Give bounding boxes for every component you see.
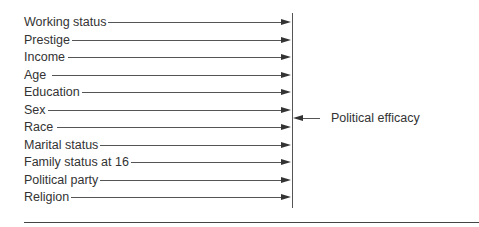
predictor-label: Prestige [24, 33, 72, 47]
predictor-arrow-line [52, 75, 282, 76]
predictor-arrow-line [128, 162, 282, 163]
arrowhead-icon [281, 124, 291, 130]
predictor-arrow-line [57, 127, 282, 128]
outcome-label: Political efficacy [331, 111, 420, 125]
arrowhead-icon [281, 89, 291, 95]
arrowhead-icon [281, 54, 291, 60]
arrowhead-icon [281, 72, 291, 78]
predictor-arrow-line [90, 22, 282, 23]
predictor-arrow-line [47, 110, 282, 111]
outcome-arrow-line [300, 118, 320, 119]
bottom-rule [24, 222, 479, 223]
arrowhead-icon [281, 142, 291, 148]
predictor-arrow-line [77, 92, 282, 93]
arrowhead-icon [281, 177, 291, 183]
convergence-line [292, 13, 293, 208]
predictor-label: Income [24, 50, 67, 64]
arrowhead-icon [281, 107, 291, 113]
predictor-label: Marital status [24, 138, 100, 152]
arrowhead-icon [281, 19, 291, 25]
predictor-arrow-line [68, 197, 282, 198]
arrowhead-icon [281, 37, 291, 43]
predictor-label: Religion [24, 190, 71, 204]
predictor-label: Family status at 16 [24, 155, 131, 169]
predictor-arrow-line [99, 180, 282, 181]
predictor-label: Working status [24, 15, 108, 29]
predictor-label: Political party [24, 173, 100, 187]
predictor-arrow-line [72, 40, 282, 41]
arrowhead-icon [281, 159, 291, 165]
predictor-arrow-line [68, 57, 282, 58]
predictor-label: Age [24, 68, 48, 82]
predictor-arrow-line [99, 145, 282, 146]
outcome-arrowhead-icon [293, 115, 303, 121]
predictor-label: Sex [24, 103, 48, 117]
arrowhead-icon [281, 194, 291, 200]
predictor-label: Race [24, 120, 55, 134]
predictor-label: Education [24, 85, 82, 99]
